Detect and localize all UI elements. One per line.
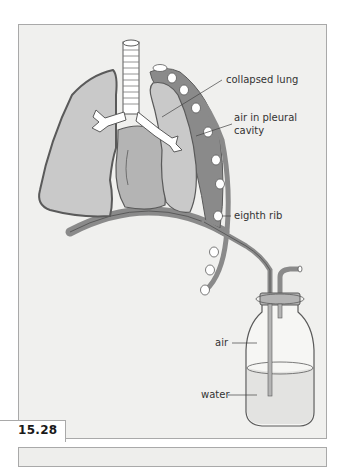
label-collapsed-lung: collapsed lung [226, 74, 298, 85]
label-water: water [201, 389, 230, 400]
trachea [123, 42, 139, 114]
label-air: air [215, 337, 229, 348]
label-eighth-rib: eighth rib [234, 210, 282, 221]
label-air-in-pleural: air in pleural [234, 112, 297, 123]
label-cavity: cavity [234, 125, 264, 136]
right-lung-normal [39, 70, 116, 216]
figure-number: 15.28 [18, 423, 57, 437]
water [247, 368, 313, 424]
chest-drain-tube [204, 222, 270, 300]
